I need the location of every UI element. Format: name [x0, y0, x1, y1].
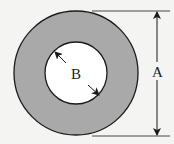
label-a: A	[152, 64, 163, 80]
annulus-diagram: A B	[0, 0, 174, 144]
diagram-svg: A B	[0, 0, 174, 144]
label-b: B	[71, 66, 81, 82]
